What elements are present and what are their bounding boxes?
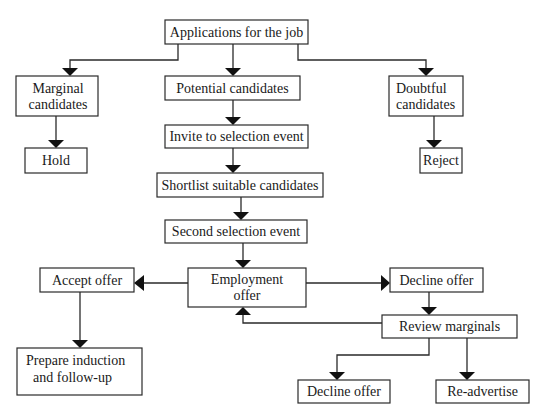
node-label: Decline offer	[400, 273, 474, 288]
node-decline-offer-bottom: Decline offer	[298, 380, 390, 403]
node-employment-offer: Employment offer	[188, 268, 306, 307]
edge-review-decline	[337, 338, 429, 374]
node-label: Marginal	[32, 81, 83, 96]
node-label: Accept offer	[52, 273, 122, 288]
arrowhead-down-icon	[426, 140, 442, 148]
edge-applications-marginal	[70, 44, 178, 70]
arrowhead-down-icon	[225, 117, 241, 125]
node-label: Potential candidates	[176, 81, 288, 96]
node-label: Review marginals	[399, 319, 500, 334]
arrowhead-up-icon	[235, 307, 251, 315]
node-potential-candidates: Potential candidates	[165, 76, 300, 100]
flowchart: Applications for the job Marginal candid…	[0, 0, 545, 417]
node-readvertise: Re-advertise	[436, 380, 529, 403]
arrowhead-right-icon	[381, 275, 390, 291]
node-invite: Invite to selection event	[165, 125, 308, 148]
arrowhead-down-icon	[225, 165, 241, 173]
node-label: Re-advertise	[447, 384, 518, 399]
arrowhead-down-icon	[329, 372, 345, 380]
node-decline-offer-top: Decline offer	[390, 268, 483, 292]
edge-review-employment	[243, 313, 382, 323]
node-doubtful-candidates: Doubtful candidates	[389, 76, 463, 116]
node-label: candidates	[396, 97, 455, 112]
node-label: Employment	[211, 272, 283, 287]
edge-applications-doubtful	[298, 44, 426, 70]
node-label: Doubtful	[396, 81, 447, 96]
node-label: Shortlist suitable candidates	[161, 178, 318, 193]
arrowhead-down-icon	[459, 372, 475, 380]
node-label: Hold	[42, 153, 70, 168]
arrowhead-down-icon	[72, 340, 88, 348]
arrowhead-down-icon	[421, 307, 437, 315]
arrowhead-down-icon	[235, 260, 251, 268]
node-accept-offer: Accept offer	[40, 268, 134, 292]
arrowhead-down-icon	[48, 140, 64, 148]
arrowhead-down-icon	[418, 68, 434, 76]
node-hold: Hold	[25, 148, 87, 173]
node-label: Decline offer	[307, 384, 381, 399]
arrowhead-down-icon	[233, 212, 249, 220]
arrowhead-down-icon	[225, 68, 241, 76]
node-label: Prepare induction	[26, 353, 125, 368]
node-label: offer	[234, 288, 261, 303]
node-second-selection: Second selection event	[165, 220, 307, 243]
node-marginal-candidates: Marginal candidates	[16, 76, 98, 116]
node-applications: Applications for the job	[165, 20, 308, 44]
arrowhead-left-icon	[134, 275, 144, 291]
node-label: Applications for the job	[170, 25, 303, 40]
node-label: candidates	[28, 97, 87, 112]
node-label: Invite to selection event	[169, 129, 303, 144]
node-reject: Reject	[420, 148, 462, 173]
node-label: and follow-up	[33, 370, 112, 385]
node-review-marginals: Review marginals	[382, 315, 517, 338]
node-prepare-induction: Prepare induction and follow-up	[17, 348, 142, 395]
arrowhead-down-icon	[62, 68, 78, 76]
node-shortlist: Shortlist suitable candidates	[157, 173, 323, 197]
node-label: Second selection event	[172, 224, 300, 239]
node-label: Reject	[423, 153, 459, 168]
